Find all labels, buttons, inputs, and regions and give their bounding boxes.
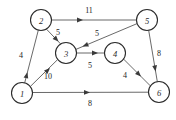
graph-node-4[interactable]: 4 (105, 43, 126, 64)
edge-arrowhead-icon (82, 42, 89, 49)
edges-layer (25, 20, 158, 93)
graph-node-2[interactable]: 2 (31, 10, 52, 31)
node-label: 3 (63, 49, 68, 59)
edge-arrowhead-icon (77, 18, 83, 23)
edge-arrowhead-icon (92, 51, 98, 56)
edge-weight-label: 11 (85, 6, 93, 15)
nodes-layer: 123456 (12, 10, 170, 104)
graph-figure: 123456 11545584108 (0, 0, 176, 120)
edge-weight-label: 5 (95, 29, 99, 38)
node-label: 1 (20, 89, 24, 99)
node-label: 5 (145, 16, 149, 26)
graph-edge (149, 30, 158, 81)
edge-weight-label: 8 (88, 99, 92, 108)
edge-arrowhead-icon (24, 72, 30, 79)
edge-weight-label: 4 (19, 51, 23, 60)
edge-weight-label: 4 (123, 71, 127, 80)
edge-weight-label: 10 (44, 72, 52, 81)
graph-canvas: 123456 11545584108 (0, 0, 176, 120)
graph-node-6[interactable]: 6 (149, 82, 170, 103)
edge-weight-label: 8 (157, 49, 161, 58)
graph-node-3[interactable]: 3 (56, 43, 77, 64)
edge-arrowhead-icon (84, 90, 90, 95)
edge-weight-label: 5 (56, 28, 60, 37)
graph-node-5[interactable]: 5 (137, 10, 158, 31)
graph-node-1[interactable]: 1 (12, 83, 33, 104)
edge-weight-label: 5 (88, 61, 92, 70)
